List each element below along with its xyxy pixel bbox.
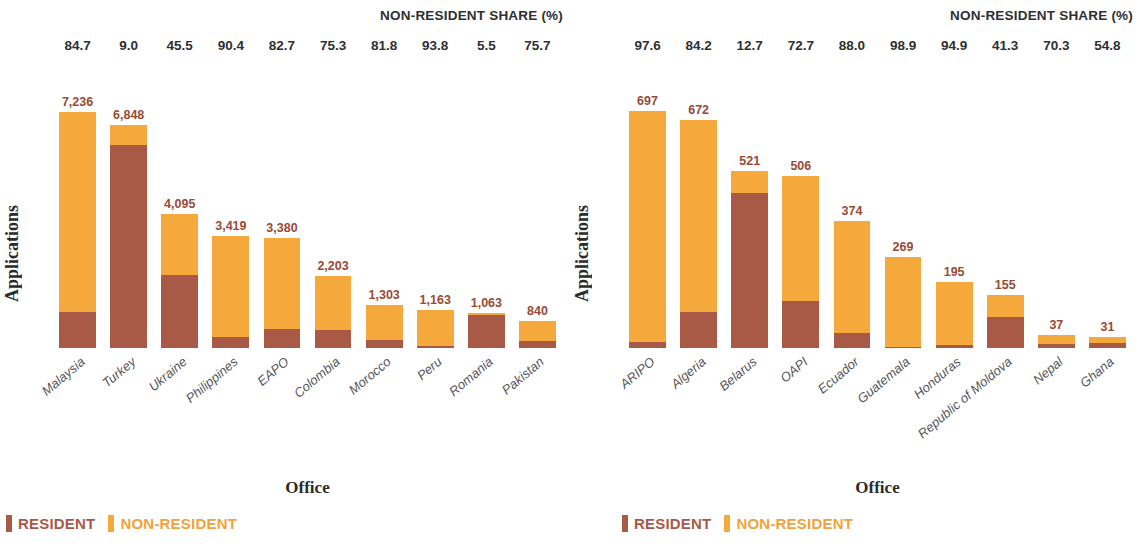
bar-group[interactable]: 1,063: [461, 100, 512, 348]
bar-segment-nonresident[interactable]: [417, 310, 454, 346]
bar-segment-nonresident[interactable]: [1038, 335, 1075, 344]
bar-group[interactable]: 269: [878, 100, 929, 348]
bar-group[interactable]: 672: [673, 100, 724, 348]
x-axis-tick: Guatemala: [878, 350, 929, 460]
bar-value-label: 1,063: [471, 296, 502, 310]
nonresident-share-value: 97.6: [622, 36, 673, 56]
x-axis-tick: Republic of Moldova: [980, 350, 1031, 460]
bar-segment-resident[interactable]: [885, 347, 922, 349]
bar-segment-nonresident[interactable]: [212, 236, 249, 337]
nonresident-share-value: 75.7: [512, 36, 563, 56]
bar-value-label: 3,380: [266, 221, 297, 235]
bar-segment-resident[interactable]: [161, 275, 198, 348]
bar-segment-nonresident[interactable]: [629, 111, 666, 342]
resident-swatch-icon: [6, 515, 12, 532]
bar-value-label: 269: [893, 240, 914, 254]
bar-segment-nonresident[interactable]: [936, 282, 973, 345]
bar-segment-resident[interactable]: [834, 333, 871, 348]
bar-segment-nonresident[interactable]: [782, 176, 819, 301]
bar-group[interactable]: 2,203: [308, 100, 359, 348]
x-axis-tick-label: Peru: [414, 354, 445, 383]
nonresident-share-value: 41.3: [980, 36, 1031, 56]
legend-label-resident: RESIDENT: [634, 515, 711, 532]
nonresident-share-header-left: NON-RESIDENT SHARE (%): [380, 8, 563, 23]
x-axis-tick-label: ARIPO: [617, 354, 658, 392]
bar-segment-resident[interactable]: [110, 145, 147, 348]
bar-segment-resident[interactable]: [782, 301, 819, 348]
bar-segment-nonresident[interactable]: [161, 214, 198, 275]
x-axis-tick: Peru: [410, 350, 461, 460]
bar-segment-resident[interactable]: [519, 341, 556, 348]
x-axis-tick: Turkey: [103, 350, 154, 460]
bar-segment-nonresident[interactable]: [885, 257, 922, 347]
nonresident-share-header-right: NON-RESIDENT SHARE (%): [950, 8, 1133, 23]
nonresident-swatch-icon: [108, 515, 114, 532]
nonresident-share-value: 88.0: [826, 36, 877, 56]
bar-group[interactable]: 506: [775, 100, 826, 348]
legend-item-resident-right[interactable]: RESIDENT: [622, 515, 711, 532]
bar-segment-resident[interactable]: [1038, 344, 1075, 348]
bar-group[interactable]: 7,236: [52, 100, 103, 348]
bar-segment-resident[interactable]: [468, 315, 505, 348]
bar-group[interactable]: 697: [622, 100, 673, 348]
nonresident-share-value: 45.5: [154, 36, 205, 56]
bar-segment-resident[interactable]: [680, 312, 717, 348]
chart-panel-left: NON-RESIDENT SHARE (%) 84.79.045.590.482…: [0, 0, 569, 547]
bar-value-label: 6,848: [113, 108, 144, 122]
plot-area-right: 6976725215063742691951553731: [622, 100, 1133, 348]
bar-group[interactable]: 840: [512, 100, 563, 348]
bar-segment-nonresident[interactable]: [987, 295, 1024, 317]
bar-segment-nonresident[interactable]: [366, 305, 403, 340]
bar-group[interactable]: 3,419: [205, 100, 256, 348]
bar-segment-resident[interactable]: [315, 330, 352, 348]
bar-group[interactable]: 1,303: [359, 100, 410, 348]
bar-group[interactable]: 4,095: [154, 100, 205, 348]
legend-item-nonresident-right[interactable]: NON-RESIDENT: [724, 515, 853, 532]
bar-group[interactable]: 155: [980, 100, 1031, 348]
bar-group[interactable]: 374: [826, 100, 877, 348]
bar-segment-nonresident[interactable]: [680, 120, 717, 312]
bar-segment-resident[interactable]: [1089, 343, 1126, 348]
bar-segment-resident[interactable]: [629, 342, 666, 348]
bar-segment-nonresident[interactable]: [264, 238, 301, 329]
bar-group[interactable]: 31: [1082, 100, 1133, 348]
bar-value-label: 31: [1100, 320, 1114, 334]
nonresident-swatch-icon: [724, 515, 730, 532]
x-axis-tick-label: Ghana: [1078, 354, 1118, 391]
legend-item-nonresident-left[interactable]: NON-RESIDENT: [108, 515, 237, 532]
bar-group[interactable]: 1,163: [410, 100, 461, 348]
bar-segment-resident[interactable]: [731, 193, 768, 348]
bar-group[interactable]: 521: [724, 100, 775, 348]
bar-value-label: 155: [995, 278, 1016, 292]
bar-segment-nonresident[interactable]: [59, 112, 96, 312]
bar-segment-resident[interactable]: [417, 346, 454, 348]
x-axis-tick-label: EAPO: [254, 354, 291, 389]
nonresident-share-value: 70.3: [1031, 36, 1082, 56]
bar-segment-resident[interactable]: [59, 312, 96, 348]
x-axis-tick: Ghana: [1082, 350, 1133, 460]
bar-segment-resident[interactable]: [987, 317, 1024, 348]
chart-panel-right: NON-RESIDENT SHARE (%) 97.684.212.772.78…: [570, 0, 1139, 547]
bar-segment-nonresident[interactable]: [834, 221, 871, 333]
nonresident-share-value: 12.7: [724, 36, 775, 56]
nonresident-share-value: 72.7: [775, 36, 826, 56]
bar-group[interactable]: 37: [1031, 100, 1082, 348]
bar-value-label: 374: [842, 204, 863, 218]
bar-segment-nonresident[interactable]: [519, 321, 556, 342]
bar-value-label: 1,303: [369, 288, 400, 302]
bar-segment-resident[interactable]: [212, 337, 249, 348]
legend-item-resident-left[interactable]: RESIDENT: [6, 515, 95, 532]
bar-segment-resident[interactable]: [366, 340, 403, 348]
bar-group[interactable]: 6,848: [103, 100, 154, 348]
x-axis-title-right: Office: [622, 478, 1133, 498]
bar-group[interactable]: 3,380: [256, 100, 307, 348]
bar-segment-nonresident[interactable]: [731, 171, 768, 193]
bar-segment-nonresident[interactable]: [110, 125, 147, 145]
bar-group[interactable]: 195: [929, 100, 980, 348]
bar-segment-resident[interactable]: [264, 329, 301, 348]
bar-segment-resident[interactable]: [936, 345, 973, 348]
x-axis-tick-label: Nepal: [1030, 354, 1066, 387]
legend-label-nonresident: NON-RESIDENT: [120, 515, 237, 532]
nonresident-share-value: 54.8: [1082, 36, 1133, 56]
bar-segment-nonresident[interactable]: [315, 276, 352, 330]
